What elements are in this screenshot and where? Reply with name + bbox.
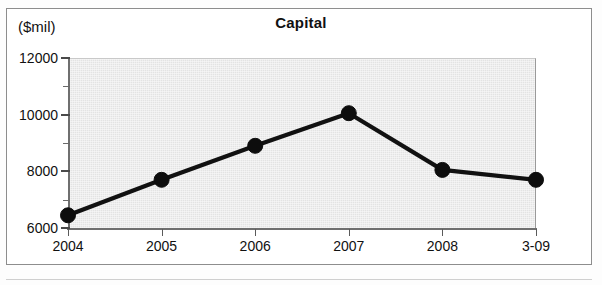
chart-figure: Capital ($mil) 600080001000012000 200420… bbox=[0, 0, 602, 285]
data-point-marker bbox=[248, 138, 263, 153]
capital-data-markers bbox=[61, 106, 544, 223]
data-point-marker bbox=[61, 208, 76, 223]
data-point-marker bbox=[341, 106, 356, 121]
data-point-marker bbox=[154, 172, 169, 187]
data-point-marker bbox=[435, 162, 450, 177]
data-point-marker bbox=[529, 172, 544, 187]
capital-line-series bbox=[68, 113, 536, 215]
data-series-layer bbox=[0, 0, 602, 285]
